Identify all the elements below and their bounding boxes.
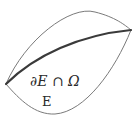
boundary-label: ∂E ∩ Ω [30,74,80,88]
diagram-canvas [0,0,135,120]
set-e-label: E [42,95,52,108]
set-boundary-diagram: ∂E ∩ Ω E [0,0,135,120]
